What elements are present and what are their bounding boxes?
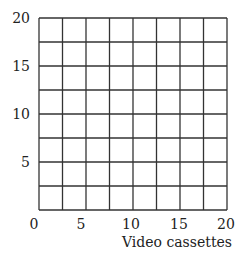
empty-grid-chart: 20 15 10 5 0 5 10 15 20 Video cassettes	[0, 0, 250, 257]
y-tick-15: 15	[12, 58, 30, 74]
x-tick-15: 15	[170, 216, 188, 232]
y-tick-10: 10	[12, 106, 30, 122]
x-tick-20: 20	[217, 216, 235, 232]
x-axis-label: Video cassettes	[121, 234, 232, 250]
x-tick-5: 5	[77, 216, 86, 232]
plot-grid	[39, 18, 227, 210]
y-tick-20: 20	[12, 10, 30, 26]
x-tick-0: 0	[30, 216, 39, 232]
y-tick-5: 5	[21, 154, 30, 170]
x-tick-10: 10	[122, 216, 140, 232]
